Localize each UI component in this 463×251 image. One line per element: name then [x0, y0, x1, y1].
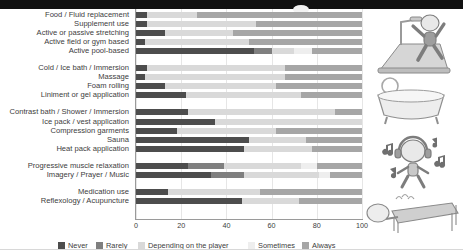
bar-segment-always: [197, 12, 362, 18]
plot-area: [136, 9, 362, 219]
bar-segment-rarely: [188, 163, 224, 169]
bar-row: [136, 146, 362, 152]
x-tick-label: 60: [268, 221, 276, 230]
bar-segment-never: [136, 198, 242, 204]
bar-segment-never: [136, 65, 147, 71]
category-label: Sauna: [107, 136, 129, 144]
category-label: Cold / Ice bath / Immersion: [38, 64, 129, 72]
category-label: Active or passive stretching: [37, 29, 129, 37]
bar-segment-always: [233, 30, 362, 36]
bar-row: [136, 109, 362, 115]
bar-segment-depending-on-the-player: [168, 189, 261, 195]
category-label: Active pool-based: [69, 47, 129, 55]
bar-segment-depending-on-the-player: [272, 48, 295, 54]
x-tick-label: 80: [313, 221, 321, 230]
x-tick-label: 0: [134, 221, 138, 230]
x-axis-tick-labels: 020406080100: [136, 221, 362, 233]
bar-segment-depending-on-the-player: [147, 12, 197, 18]
bar-segment-sometimes: [319, 172, 330, 178]
bar-segment-depending-on-the-player: [224, 163, 301, 169]
bar-row: [136, 128, 362, 134]
bar-segment-never: [136, 109, 188, 115]
bar-segment-always: [285, 65, 362, 71]
bar-segment-depending-on-the-player: [177, 128, 276, 134]
legend-swatch: [248, 242, 255, 249]
bar-row: [136, 65, 362, 71]
bar-row: [136, 30, 362, 36]
category-label: Compression garments: [51, 127, 130, 135]
category-label: Liniment or gel application: [41, 91, 129, 99]
x-tick-label: 40: [222, 221, 230, 230]
bar-row: [136, 163, 362, 169]
bar-segment-never: [136, 163, 188, 169]
bar-segment-never: [136, 21, 147, 27]
bar-segment-always: [276, 83, 362, 89]
bar-segment-always: [301, 92, 362, 98]
category-label: Imagery / Prayer / Music: [47, 171, 129, 179]
bottom-divider: [0, 249, 463, 250]
massage-table-illustration: [366, 191, 460, 235]
category-label: Massage: [98, 73, 129, 81]
category-axis-labels: Food / Fluid replacementSupplement useAc…: [0, 9, 133, 219]
bar-segment-always: [256, 21, 362, 27]
bar-segment-depending-on-the-player: [186, 92, 301, 98]
bar-segment-never: [136, 189, 168, 195]
bar-segment-never: [136, 39, 145, 45]
category-label: Progressive muscle relaxation: [28, 162, 129, 170]
bar-segment-always: [260, 189, 362, 195]
bar-segment-never: [136, 128, 177, 134]
bar-segment-always: [306, 137, 363, 143]
legend-swatch: [138, 242, 145, 249]
bar-segment-depending-on-the-player: [249, 137, 306, 143]
bar-segment-never: [136, 83, 165, 89]
bar-segment-always: [335, 109, 362, 115]
figure-root: Food / Fluid replacementSupplement useAc…: [0, 0, 463, 251]
illustrations-column: [366, 9, 463, 229]
bar-row: [136, 172, 362, 178]
bar-segment-depending-on-the-player: [147, 65, 285, 71]
bar-segment-never: [136, 137, 249, 143]
bar-segment-always: [330, 172, 362, 178]
bar-segment-depending-on-the-player: [145, 74, 285, 80]
category-label: Ice pack / vest application: [42, 118, 129, 126]
bar-segment-never: [136, 92, 186, 98]
bar-segment-depending-on-the-player: [165, 30, 233, 36]
category-label: Active field or gym based: [44, 38, 129, 46]
bar-row: [136, 12, 362, 18]
bar-row: [136, 189, 362, 195]
x-axis-line: [135, 219, 363, 220]
bar-segment-never: [136, 30, 165, 36]
bar-segment-depending-on-the-player: [215, 119, 362, 125]
bar-row: [136, 198, 362, 204]
bar-segment-depending-on-the-player: [145, 39, 249, 45]
bar-segment-rarely: [211, 172, 245, 178]
bar-row: [136, 119, 362, 125]
treadmill-runner-illustration: [370, 14, 458, 76]
bar-row: [136, 39, 362, 45]
bar-segment-never: [136, 74, 145, 80]
category-label: Food / Fluid replacement: [45, 11, 129, 19]
bar-segment-never: [136, 172, 211, 178]
category-label: Foam rolling: [87, 82, 129, 90]
legend-swatch: [58, 242, 65, 249]
bar-segment-depending-on-the-player: [165, 83, 276, 89]
bar-segment-rarely: [254, 48, 272, 54]
bar-segment-always: [312, 146, 362, 152]
bar-row: [136, 137, 362, 143]
music-headphones-illustration: [370, 131, 458, 191]
bar-segment-never: [136, 119, 215, 125]
bar-segment-never: [136, 48, 254, 54]
bar-row: [136, 83, 362, 89]
bar-segment-depending-on-the-player: [188, 109, 335, 115]
bar-segment-depending-on-the-player: [242, 198, 299, 204]
bar-segment-depending-on-the-player: [147, 21, 255, 27]
gridline: [362, 9, 363, 219]
bar-segment-depending-on-the-player: [244, 146, 312, 152]
category-label: Medication use: [78, 188, 129, 196]
bar-segment-never: [136, 146, 244, 152]
category-label: Reflexology / Acupuncture: [41, 197, 129, 205]
bar-segment-always: [285, 74, 362, 80]
bar-segment-depending-on-the-player: [244, 172, 319, 178]
legend-swatch: [302, 242, 309, 249]
bar-row: [136, 92, 362, 98]
